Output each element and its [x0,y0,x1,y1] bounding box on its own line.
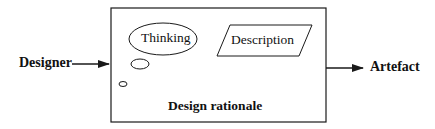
thought-bubble-medium [131,59,149,69]
artefact-label: Artefact [370,59,420,75]
thought-bubble-small [119,82,127,87]
design-rationale-label: Design rationale [168,98,262,114]
designer-label: Designer [19,55,72,71]
description-label: Description [231,32,294,48]
thinking-label: Thinking [141,30,191,46]
